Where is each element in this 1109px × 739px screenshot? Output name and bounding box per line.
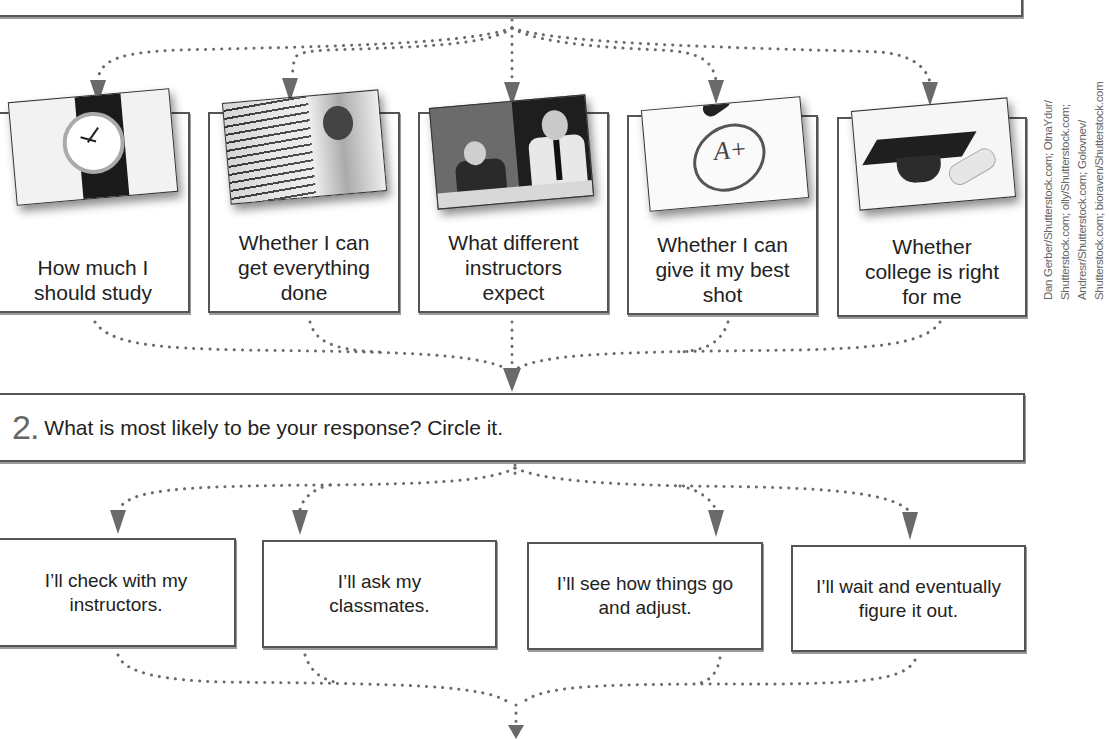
instructors-photo	[429, 94, 594, 209]
arrow-down-icon	[110, 510, 126, 534]
concern-label: How much I should study	[18, 255, 168, 305]
arrow-down-icon	[922, 82, 938, 106]
arrow-down-icon	[902, 512, 918, 540]
credit-line: Dan Gerber/Shutterstock.com; OtnaYdur/	[1040, 82, 1057, 300]
concern-label: What different instructors expect	[434, 230, 594, 305]
photo-credit: Dan Gerber/Shutterstock.com; OtnaYdur/ S…	[1040, 82, 1108, 300]
response-label: I’ll wait and eventually figure it out.	[814, 575, 1004, 623]
concern-label: Whether I can give it my best shot	[638, 232, 808, 307]
stack-of-papers-photo	[222, 89, 387, 204]
response-option[interactable]: I’ll wait and eventually figure it out.	[791, 545, 1026, 652]
a-plus-grade-photo: A+	[641, 96, 809, 212]
credit-line: Shutterstock.com; olly/Shutterstock.com;	[1057, 82, 1074, 300]
arrow-down-icon	[508, 725, 524, 739]
graduation-cap-photo	[851, 97, 1016, 210]
concern-label: Whether I can get everything done	[224, 230, 384, 305]
credit-line: Andresr/Shutterstock.com; Golovnev/	[1074, 82, 1091, 300]
question-2-box: 2. What is most likely to be your respon…	[0, 393, 1025, 462]
response-option[interactable]: I’ll check with my instructors.	[0, 538, 236, 647]
credit-line: Shutterstock.com; bioraven/Shutterstock.…	[1091, 82, 1108, 300]
response-label: I’ll check with my instructors.	[16, 569, 216, 617]
arrow-down-icon	[708, 510, 724, 537]
arrow-down-icon	[503, 368, 521, 392]
arrow-down-icon	[708, 80, 724, 104]
response-option[interactable]: I’ll ask my classmates.	[262, 540, 497, 648]
question-text: What is most likely to be your response?…	[44, 416, 503, 440]
arrow-down-icon	[292, 510, 308, 535]
wristwatch-photo	[8, 88, 178, 206]
question-1-box	[0, 0, 1023, 17]
question-number: 2.	[12, 408, 38, 447]
response-label: I’ll ask my classmates.	[305, 570, 455, 618]
response-option[interactable]: I’ll see how things go and adjust.	[527, 542, 763, 650]
response-label: I’ll see how things go and adjust.	[545, 572, 745, 620]
concern-label: Whether college is right for me	[857, 234, 1007, 309]
